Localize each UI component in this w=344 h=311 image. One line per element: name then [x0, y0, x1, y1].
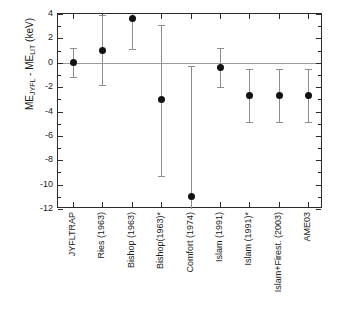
error-bar-cap-lower [158, 176, 165, 177]
error-bar-line [191, 66, 192, 209]
error-bar-cap-lower [70, 77, 77, 78]
x-tick-label: Comfort (1974) [185, 212, 194, 273]
x-tick-label: Islam+Firest. (2003) [273, 212, 282, 292]
zero-reference-line [58, 63, 321, 64]
y-axis-title-prefix: ME [24, 95, 35, 110]
y-tick-minor [58, 172, 61, 173]
data-point-group[interactable] [308, 14, 309, 207]
error-bar-cap-upper [158, 25, 165, 26]
x-label-slot: Bishop(1963)* [160, 208, 161, 308]
data-point-group[interactable] [249, 14, 250, 207]
y-axis-title-middle: - ME [24, 55, 35, 79]
x-label-slot: Comfort (1974) [190, 208, 191, 308]
error-bar-cap-lower [217, 87, 224, 88]
data-point-marker[interactable] [276, 92, 283, 99]
data-point-group[interactable] [191, 14, 192, 207]
data-point-group[interactable] [161, 14, 162, 207]
data-point-marker[interactable] [70, 59, 77, 66]
error-bar-cap-upper [70, 48, 77, 49]
y-tick-major [58, 160, 63, 161]
y-tick-major-right [316, 185, 321, 186]
y-tick-minor-right [318, 51, 321, 52]
y-tick-minor-right [318, 148, 321, 149]
y-tick-minor [58, 197, 61, 198]
x-label-slot: JYFLTRAP [72, 208, 73, 308]
y-tick-major [58, 136, 63, 137]
error-bar-cap-upper [188, 66, 195, 67]
y-tick-minor [58, 124, 61, 125]
y-tick-major [58, 185, 63, 186]
y-tick-minor [58, 99, 61, 100]
y-tick-label: 4 [48, 9, 53, 18]
x-tick-label: Ries (1963) [97, 212, 106, 259]
y-tick-major-right [316, 136, 321, 137]
y-axis-title-sub-jyfl: JYFL [29, 79, 36, 95]
error-bar-cap-lower [129, 49, 136, 50]
x-tick-label: Islam (1991) [214, 212, 223, 262]
data-point-group[interactable] [279, 14, 280, 207]
y-tick-major-right [316, 14, 321, 15]
data-point-marker[interactable] [188, 193, 195, 200]
y-tick-major [58, 14, 63, 15]
chart-figure: 420-2-4-6-8-10-12 MEJYFL - MELIT (keV) J… [0, 0, 344, 311]
data-point-marker[interactable] [129, 15, 136, 22]
y-tick-label: -10 [40, 179, 53, 188]
error-bar-cap-upper [217, 48, 224, 49]
y-tick-label: -6 [45, 130, 53, 139]
y-tick-minor-right [318, 99, 321, 100]
data-point-group[interactable] [132, 14, 133, 207]
x-label-slot: AME03 [307, 208, 308, 308]
y-tick-major-right [316, 112, 321, 113]
data-point-marker[interactable] [246, 92, 253, 99]
data-point-group[interactable] [220, 14, 221, 207]
error-bar-cap-lower [276, 122, 283, 123]
y-tick-minor [58, 148, 61, 149]
y-tick-major-right [316, 63, 321, 64]
y-tick-major-right [316, 87, 321, 88]
x-label-slot: Ries (1963) [101, 208, 102, 308]
y-tick-minor-right [318, 172, 321, 173]
y-tick-minor [58, 26, 61, 27]
error-bar-cap-upper [276, 69, 283, 70]
y-axis-title-suffix: (keV) [24, 18, 35, 45]
y-axis-title: MEJYFL - MELIT (keV) [24, 0, 36, 139]
y-tick-minor-right [318, 75, 321, 76]
data-point-group[interactable] [73, 14, 74, 207]
error-bar-cap-lower [99, 85, 106, 86]
error-bar-cap-upper [99, 15, 106, 16]
error-bar-cap-lower [246, 122, 253, 123]
x-tick-label: AME03 [303, 212, 312, 242]
y-tick-major-right [316, 160, 321, 161]
x-tick-label: JYFLTRAP [67, 212, 76, 256]
x-label-slot: Islam+Firest. (2003) [278, 208, 279, 308]
y-axis-title-sub-lit: LIT [29, 45, 36, 55]
y-tick-minor-right [318, 26, 321, 27]
y-tick-major [58, 112, 63, 113]
y-tick-label: 0 [48, 57, 53, 66]
x-label-slot: Bishop (1963) [131, 208, 132, 308]
y-tick-minor [58, 51, 61, 52]
y-tick-minor-right [318, 197, 321, 198]
data-point-group[interactable] [102, 14, 103, 207]
x-tick-label: Bishop (1963) [126, 212, 135, 268]
data-point-marker[interactable] [99, 47, 106, 54]
x-label-slot: Islam (1991) [219, 208, 220, 308]
y-tick-label: -12 [40, 204, 53, 213]
data-point-marker[interactable] [305, 92, 312, 99]
y-tick-label: -8 [45, 155, 53, 164]
y-tick-label: -2 [45, 82, 53, 91]
y-tick-major [58, 38, 63, 39]
y-tick-minor [58, 75, 61, 76]
error-bar-cap-lower [305, 122, 312, 123]
y-tick-minor-right [318, 124, 321, 125]
y-tick-major-right [316, 38, 321, 39]
x-label-slot: Islam (1991)* [248, 208, 249, 308]
error-bar-cap-upper [305, 69, 312, 70]
x-axis-tick-labels: JYFLTRAPRies (1963)Bishop (1963)Bishop(1… [57, 208, 322, 311]
x-tick-label: Bishop(1963)* [156, 212, 165, 269]
plot-area [57, 13, 322, 208]
data-point-marker[interactable] [158, 96, 165, 103]
y-tick-label: 2 [48, 33, 53, 42]
data-point-marker[interactable] [217, 64, 224, 71]
error-bar-cap-upper [246, 69, 253, 70]
